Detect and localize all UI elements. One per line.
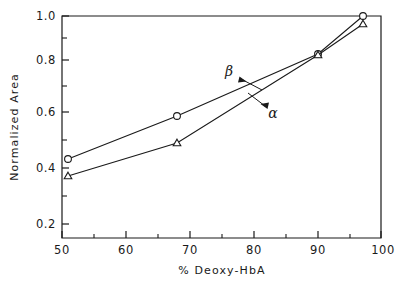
data-point-marker xyxy=(173,139,181,146)
data-point-marker xyxy=(174,113,181,120)
line-chart: 1.0 0.6 0.8 0.4 0.2 50 60 70 80 90 100 %… xyxy=(0,0,401,285)
x-tick-label-70: 70 xyxy=(182,243,198,257)
alpha-label: α xyxy=(268,105,278,121)
x-tick-label-90: 90 xyxy=(310,243,326,257)
y-axis-major-ticks xyxy=(62,16,69,224)
beta-arrow-icon xyxy=(238,77,247,83)
y-axis-minor-ticks xyxy=(62,38,67,196)
y-tick-label-3: 0.6 xyxy=(36,105,56,119)
chart-figure: 1.0 0.6 0.8 0.4 0.2 50 60 70 80 90 100 %… xyxy=(0,0,401,285)
plot-frame xyxy=(62,16,381,238)
series-beta-line xyxy=(68,16,363,159)
series-beta xyxy=(65,13,367,163)
data-point-marker xyxy=(360,13,367,20)
x-axis-title: % Deoxy-HbA xyxy=(178,264,265,277)
y-tick-label-1: 1.0 xyxy=(36,9,56,23)
x-tick-label-50: 50 xyxy=(54,243,70,257)
y-tick-label-4: 0.4 xyxy=(36,161,56,175)
data-point-marker xyxy=(65,156,72,163)
y-tick-label-5: 0.2 xyxy=(36,217,56,231)
x-tick-label-80: 80 xyxy=(246,243,262,257)
beta-annotation-group: β xyxy=(224,63,262,90)
y-axis-title: Normalized Area xyxy=(8,73,21,181)
series-alpha-line xyxy=(68,24,363,176)
y-tick-label-2: 0.8 xyxy=(36,53,56,67)
x-tick-label-60: 60 xyxy=(118,243,134,257)
x-tick-label-100: 100 xyxy=(371,243,395,257)
data-point-marker xyxy=(359,20,367,27)
alpha-annotation-group: α xyxy=(248,93,278,121)
beta-label: β xyxy=(224,63,233,79)
